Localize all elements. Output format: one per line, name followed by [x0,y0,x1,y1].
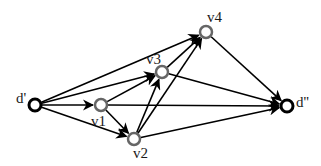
node-v4 [200,26,212,38]
node-v1 [95,99,107,111]
node-v3 [156,66,168,78]
graph-svg: d'v1v2v3v4d'' [0,0,321,166]
edge-v4-to-d2 [211,37,281,101]
edge-v2-to-d2 [141,108,279,138]
node-label-d1: d' [16,90,27,106]
node-label-v3: v3 [146,51,161,67]
edge-d1-to-v4 [41,35,198,102]
node-label-v1: v1 [91,113,106,129]
labels-layer: d'v1v2v3v4d'' [16,9,309,161]
edge-v3-to-d2 [169,74,280,104]
node-d2 [281,100,293,112]
node-label-v4: v4 [207,9,223,25]
edges-layer [41,35,281,137]
graph-diagram: d'v1v2v3v4d'' [0,0,321,166]
nodes-layer [29,26,293,145]
node-label-d2: d'' [296,94,309,110]
node-label-v2: v2 [133,145,148,161]
node-v2 [128,133,140,145]
edge-v1-to-d2 [108,105,279,106]
node-d1 [29,99,41,111]
edge-d1-to-v2 [42,107,127,136]
